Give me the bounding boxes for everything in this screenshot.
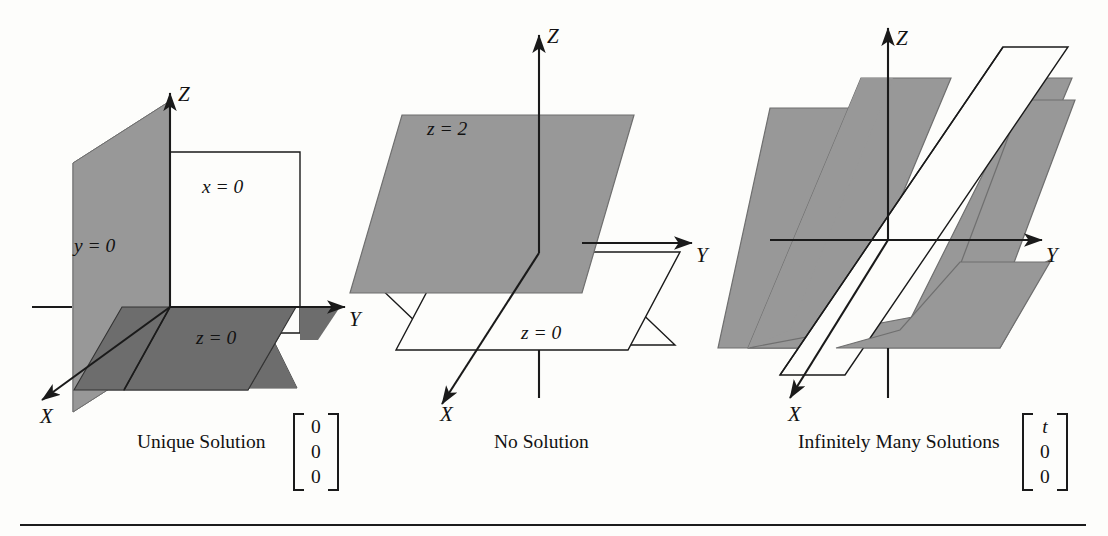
plane-label-z-equals-2: z = 2 xyxy=(427,118,467,140)
axis-label-x: X xyxy=(440,402,453,427)
plane-label-x-equals-0: x = 0 xyxy=(202,176,243,198)
three-planes-figure: x = 0 y = 0 z = 0 Z Y X Unique Solution … xyxy=(0,0,1108,536)
caption-infinitely-many-solutions: Infinitely Many Solutions xyxy=(798,431,1000,453)
axis-label-y: Y xyxy=(1046,243,1058,268)
axis-label-z: Z xyxy=(547,24,559,49)
figure-canvas xyxy=(0,0,1108,536)
matrix-column: t 0 0 xyxy=(1033,413,1057,491)
axis-label-z: Z xyxy=(896,26,908,51)
plane-z-equals-0-right-sliver xyxy=(300,307,340,340)
matrix-entry: 0 xyxy=(1040,441,1050,463)
panel-no-solution xyxy=(350,35,692,404)
plane-label-z-equals-0: z = 0 xyxy=(521,322,561,344)
caption-unique-solution: Unique Solution xyxy=(137,431,265,453)
matrix-entry: 0 xyxy=(1040,466,1050,488)
bracket-left xyxy=(293,413,304,491)
solution-matrix-unique: 0 0 0 xyxy=(293,413,339,491)
axis-label-z: Z xyxy=(178,82,190,107)
bracket-left xyxy=(1022,413,1033,491)
plane-label-z-equals-0: z = 0 xyxy=(196,327,236,349)
plane-label-y-equals-0: y = 0 xyxy=(74,235,115,257)
matrix-column: 0 0 0 xyxy=(304,413,328,491)
matrix-entry: 0 xyxy=(311,441,321,463)
axis-label-x: X xyxy=(788,402,801,427)
bracket-right xyxy=(1057,413,1068,491)
axis-label-x: X xyxy=(40,404,53,429)
axis-label-y: Y xyxy=(696,243,708,268)
matrix-entry: t xyxy=(1040,416,1050,438)
bracket-right xyxy=(328,413,339,491)
axis-label-y: Y xyxy=(349,307,361,332)
matrix-entry: 0 xyxy=(311,416,321,438)
panel-infinitely-many-solutions xyxy=(718,28,1075,398)
solution-matrix-infinite: t 0 0 xyxy=(1022,413,1068,491)
caption-no-solution: No Solution xyxy=(494,431,589,453)
matrix-entry: 0 xyxy=(311,466,321,488)
